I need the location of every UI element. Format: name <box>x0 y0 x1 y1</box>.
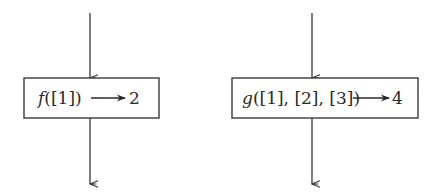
result-value: 2 <box>129 88 140 108</box>
function-arguments: ([1]) <box>44 88 81 108</box>
box-label-g: g([1], [2], [3]) <box>242 88 360 108</box>
flow-diagram: f([1]) 2 g([1], [2], [3]) 4 <box>0 0 441 196</box>
box-label-f: f([1]) <box>36 88 82 108</box>
node-g: g([1], [2], [3]) 4 <box>232 13 418 184</box>
function-arguments: ([1], [2], [3]) <box>253 88 360 108</box>
function-name: g <box>242 88 253 108</box>
result-value: 4 <box>392 88 403 108</box>
node-f: f([1]) 2 <box>24 13 159 184</box>
